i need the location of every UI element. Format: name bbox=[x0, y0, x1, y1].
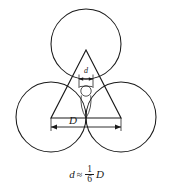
caption-variable-D: D bbox=[96, 169, 104, 180]
caption-fraction: 1 6 bbox=[84, 165, 95, 185]
d-arrow-right-icon bbox=[89, 77, 93, 80]
d-arrow-left-icon bbox=[79, 77, 83, 80]
fraction-denominator: 6 bbox=[85, 175, 94, 185]
figure-container: d D d ≈ 1 6 D bbox=[0, 0, 173, 187]
caption-expression: d ≈ 1 6 D bbox=[69, 165, 104, 185]
caption-variable-d: d bbox=[69, 169, 75, 180]
central-gap-circle bbox=[81, 86, 91, 96]
caption-approx-symbol: ≈ bbox=[76, 170, 84, 180]
figure-caption: d ≈ 1 6 D bbox=[0, 165, 173, 185]
void-arc-right bbox=[86, 95, 91, 118]
void-arc-left bbox=[81, 95, 86, 118]
large-diameter-label: D bbox=[68, 114, 77, 126]
fraction-numerator: 1 bbox=[85, 165, 94, 175]
geometry-diagram: d D bbox=[0, 0, 173, 187]
void-arc-top bbox=[80, 86, 93, 87]
small-diameter-label: d bbox=[84, 66, 89, 75]
D-arrow-right-icon bbox=[115, 125, 121, 130]
D-arrow-left-icon bbox=[51, 125, 57, 130]
